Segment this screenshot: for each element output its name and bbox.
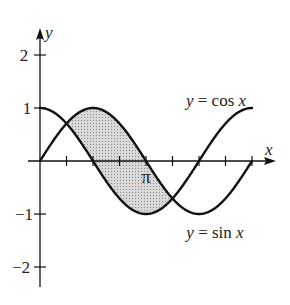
y-tick-label-minus-2: −2 (12, 258, 30, 277)
y-axis-label: y (43, 23, 53, 42)
sin-curve-label: y = sin x (184, 223, 244, 242)
cos-curve-label: y = cos x (184, 91, 247, 110)
x-axis (28, 157, 276, 165)
pi-tick-label: π (141, 167, 150, 187)
y-tick-label-minus-1: −1 (15, 205, 33, 224)
graph-canvas: y x 2 1 −1 −2 π y = cos x y = sin x (0, 0, 290, 305)
y-tick-label-2: 2 (20, 46, 29, 65)
y-tick-label-1: 1 (23, 99, 32, 118)
x-axis-label: x (264, 140, 273, 159)
